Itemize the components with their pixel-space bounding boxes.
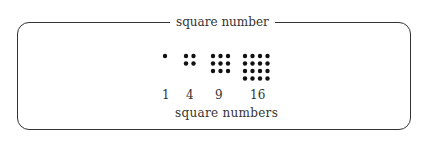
label-4: 4 (186, 88, 194, 102)
diagram-caption: square numbers (175, 106, 278, 120)
label-16: 16 (250, 88, 265, 102)
label-1: 1 (162, 88, 170, 102)
label-9: 9 (215, 88, 223, 102)
square-dot-arrays (0, 0, 430, 143)
